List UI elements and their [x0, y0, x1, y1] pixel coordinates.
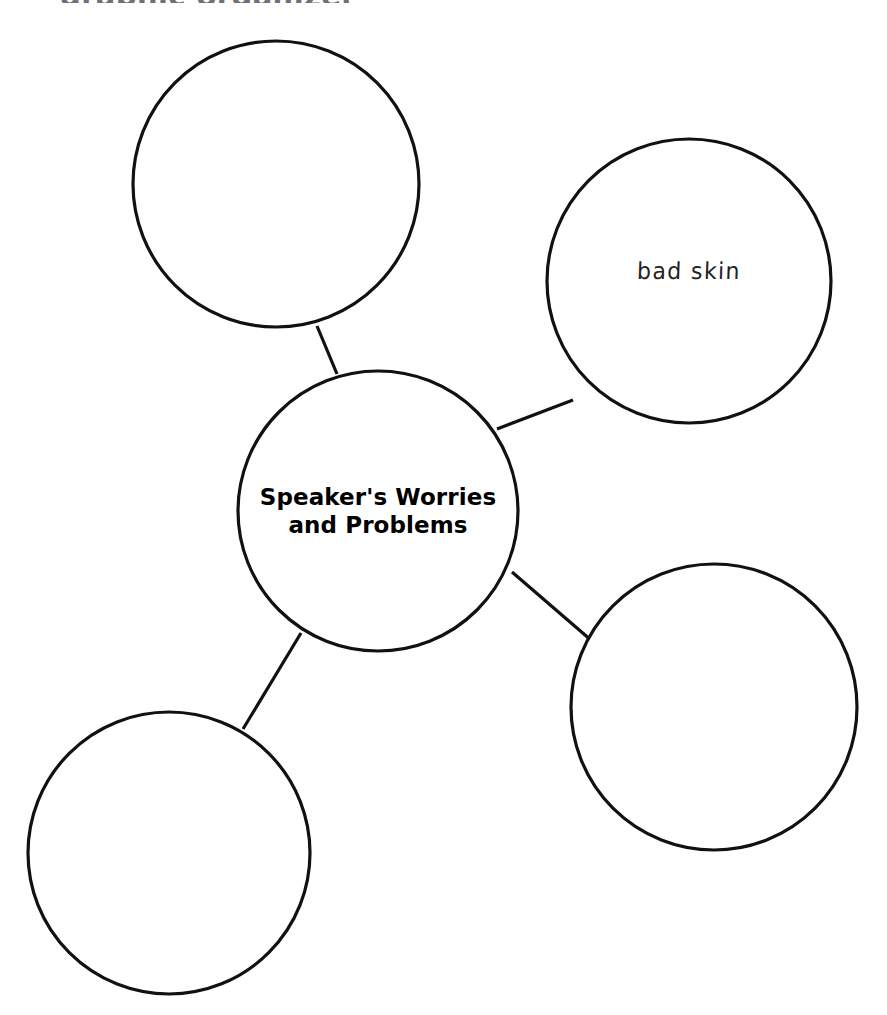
center-bubble-label: Speaker's Worries and Problems: [248, 483, 508, 539]
connector-center-to-top-right: [497, 400, 573, 429]
bubble-bottom-right[interactable]: [571, 564, 857, 850]
connector-center-to-bottom-left: [243, 633, 301, 729]
worksheet-canvas: graphic organizer Speaker's Worries and …: [0, 0, 887, 1015]
connector-center-to-top-left: [317, 326, 337, 374]
bubble-bottom-left[interactable]: [28, 712, 310, 994]
bubble-top-left[interactable]: [133, 41, 419, 327]
bubble-top-right-label: bad skin: [569, 258, 810, 285]
center-bubble-label-line1: Speaker's Worries: [260, 484, 496, 510]
center-bubble-label-line2: and Problems: [248, 511, 508, 539]
connector-center-to-bottom-right: [512, 572, 592, 641]
